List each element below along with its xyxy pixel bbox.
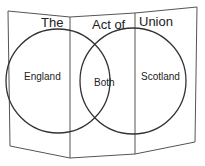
title-word-the: The <box>41 15 63 30</box>
label-england: England <box>24 71 61 82</box>
label-scotland: Scotland <box>141 71 180 82</box>
title-word-union: Union <box>139 14 173 29</box>
label-both: Both <box>94 77 115 88</box>
title-word-act-of: Act of <box>92 17 126 32</box>
venn-diagram: The Act of Union England Both Scotland <box>0 0 205 166</box>
